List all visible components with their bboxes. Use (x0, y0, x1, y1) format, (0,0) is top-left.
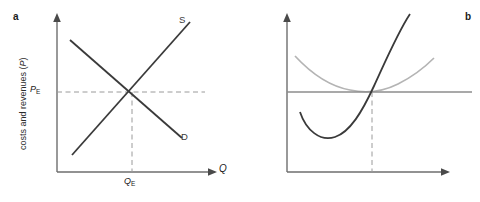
panel-label-a: a (13, 11, 19, 22)
quantity-tick-subscript-a: E (131, 180, 135, 187)
price-tick-label-a: PE (30, 84, 40, 94)
price-tick-subscript-a: E (36, 88, 40, 95)
demand-curve-label: D (181, 131, 188, 142)
y-axis-title-a-suffix: ) (18, 57, 28, 60)
panel-b: b costs and revenues (P) PE = ATC QE Q M… (240, 0, 480, 202)
economics-figure: a costs and revenues (P) PE QE Q S D b (0, 0, 480, 202)
demand-curve (70, 40, 182, 138)
panel-label-b: b (465, 11, 471, 22)
panel-b-plot (240, 0, 480, 202)
y-axis-title-a-prefix: costs and revenues ( (18, 66, 28, 150)
quantity-tick-symbol-a: Q (124, 176, 131, 186)
x-axis-arrowhead-b (441, 168, 450, 176)
quantity-tick-label-a: QE (124, 176, 135, 186)
y-axis-title-a-symbol: P (18, 60, 28, 66)
y-axis-arrowhead-a (53, 13, 61, 22)
x-axis-name-a: Q (219, 163, 227, 174)
supply-curve-label: S (179, 14, 185, 25)
panel-a-plot (0, 0, 240, 202)
x-axis-arrowhead-a (208, 168, 217, 176)
y-axis-arrowhead-b (283, 13, 291, 22)
panel-a: a costs and revenues (P) PE QE Q S D (0, 0, 240, 202)
supply-curve (72, 22, 190, 155)
y-axis-title-a: costs and revenues (P) (18, 57, 28, 150)
average-total-cost-curve (295, 56, 434, 92)
